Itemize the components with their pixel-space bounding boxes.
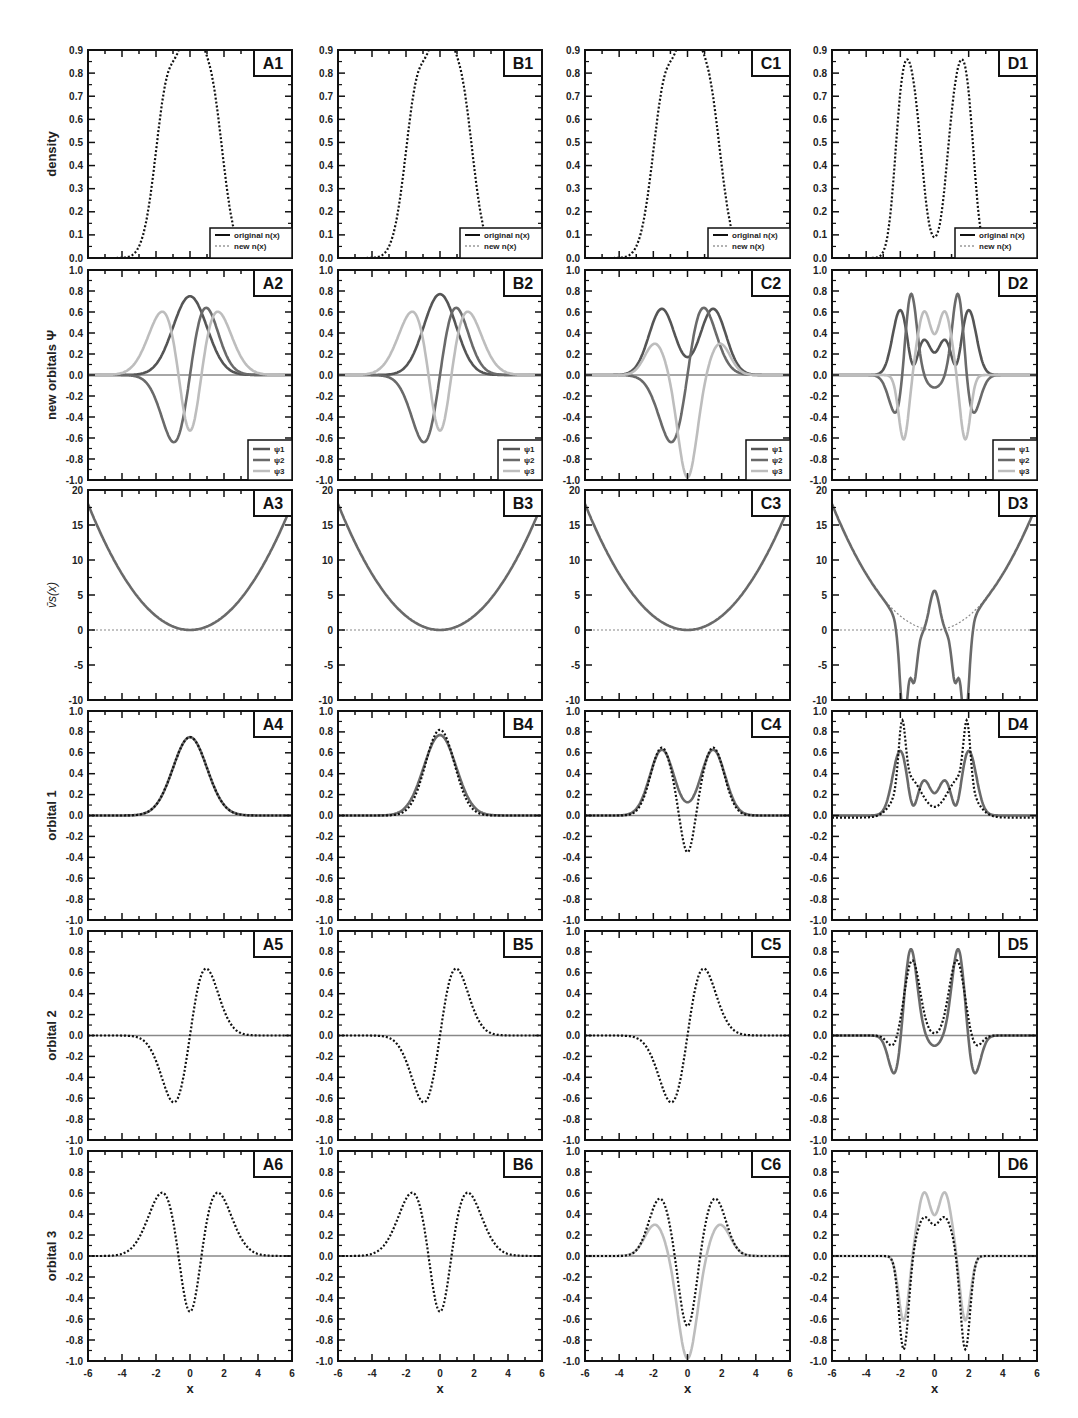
panel-A3: -10-505101520A3v̄s(x) [45, 485, 292, 706]
y-tick-label: 0.3 [566, 183, 580, 194]
y-tick-label: 0.6 [813, 307, 827, 318]
legend-entry: new n(x) [979, 242, 1012, 251]
x-axis-label: x [436, 1381, 444, 1396]
y-tick-label: 0.0 [319, 1251, 333, 1262]
y-tick-label: -0.6 [563, 433, 581, 444]
legend-entry: ψ1 [274, 445, 285, 454]
y-tick-label: 0.7 [813, 91, 827, 102]
y-tick-label: 0.2 [566, 1230, 580, 1241]
y-tick-label: -0.8 [316, 1114, 334, 1125]
curves-A2 [88, 296, 292, 442]
plot-frame [338, 50, 542, 258]
panel-D1: 0.00.10.20.30.40.50.60.70.80.9D1original… [813, 45, 1037, 264]
y-tick-label: -1.0 [563, 915, 581, 926]
y-tick-label: -1.0 [66, 1135, 84, 1146]
y-tick-label: -0.4 [66, 852, 84, 863]
y-tick-label: 0.8 [69, 68, 83, 79]
legend-entry: ψ2 [772, 456, 783, 465]
y-tick-label: 0.0 [813, 810, 827, 821]
x-tick-label: 2 [471, 1368, 477, 1379]
y-tick-label: -0.2 [66, 391, 84, 402]
y-tick-label: -0.6 [66, 433, 84, 444]
y-tick-label: 0.8 [566, 1167, 580, 1178]
y-tick-label: 1.0 [319, 926, 333, 937]
y-tick-label: 0.8 [319, 726, 333, 737]
y-tick-label: 0.5 [69, 137, 83, 148]
y-tick-label: -0.4 [66, 1072, 84, 1083]
y-tick-label: 0.2 [69, 349, 83, 360]
y-tick-label: -0.2 [563, 831, 581, 842]
x-tick-label: 6 [289, 1368, 295, 1379]
y-tick-label: 0.2 [69, 789, 83, 800]
y-tick-label: 0.2 [813, 1009, 827, 1020]
y-tick-label: 0.8 [69, 726, 83, 737]
panel-label: C3 [761, 495, 782, 512]
y-tick-label: 0.2 [566, 1009, 580, 1020]
legend-entry: new n(x) [484, 242, 517, 251]
panel-D6: -1.0-0.8-0.6-0.4-0.20.00.20.40.60.81.0D6… [810, 1146, 1040, 1397]
y-tick-label: -10 [319, 695, 334, 706]
y-tick-label: 1.0 [69, 706, 83, 717]
y-tick-label: 0.6 [566, 307, 580, 318]
y-tick-label: 5 [327, 590, 333, 601]
y-tick-label: 1.0 [319, 265, 333, 276]
x-tick-label: 4 [505, 1368, 511, 1379]
row-y-label: density [44, 130, 59, 176]
y-tick-label: -0.8 [810, 1335, 828, 1346]
y-tick-label: 0.8 [319, 1167, 333, 1178]
curves-B4 [338, 730, 542, 816]
x-tick-label: -4 [118, 1368, 127, 1379]
y-tick-label: 0.0 [566, 370, 580, 381]
y-tick-label: 1.0 [319, 1146, 333, 1157]
y-tick-label: 0.6 [813, 967, 827, 978]
y-tick-label: 0.7 [319, 91, 333, 102]
y-tick-label: 0.2 [319, 349, 333, 360]
y-tick-label: 0.4 [566, 1209, 580, 1220]
y-tick-label: 0 [821, 625, 827, 636]
y-tick-label: 0.0 [813, 1030, 827, 1041]
panel-D4: -1.0-0.8-0.6-0.4-0.20.00.20.40.60.81.0D4 [810, 706, 1037, 926]
panel-label: C6 [761, 1156, 782, 1173]
plot-frame [585, 490, 790, 700]
y-tick-label: 0.6 [69, 1188, 83, 1199]
y-tick-label: 0.8 [319, 68, 333, 79]
y-tick-label: 0.1 [319, 229, 333, 240]
panel-C3: -10-505101520C3 [566, 485, 790, 706]
y-tick-label: 0.4 [566, 768, 580, 779]
y-tick-label: 0.0 [69, 253, 83, 264]
x-axis-label: x [684, 1381, 692, 1396]
panel-D5: -1.0-0.8-0.6-0.4-0.20.00.20.40.60.81.0D5 [810, 926, 1037, 1146]
x-tick-label: 4 [1000, 1368, 1006, 1379]
legend-entry: ψ3 [274, 467, 285, 476]
y-tick-label: -0.4 [66, 1293, 84, 1304]
y-tick-label: -0.4 [810, 1072, 828, 1083]
y-tick-label: -0.2 [810, 391, 828, 402]
y-tick-label: -0.2 [810, 1272, 828, 1283]
y-tick-label: 0.2 [319, 1009, 333, 1020]
panel-label: B2 [513, 275, 534, 292]
legend-entry: ψ3 [772, 467, 783, 476]
y-tick-label: -0.8 [316, 894, 334, 905]
y-tick-label: 0.4 [319, 328, 333, 339]
panel-D2: -1.0-0.8-0.6-0.4-0.20.00.20.40.60.81.0D2… [810, 265, 1037, 486]
panel-label: D2 [1008, 275, 1029, 292]
y-tick-label: -0.8 [316, 454, 334, 465]
panel-B5: -1.0-0.8-0.6-0.4-0.20.00.20.40.60.81.0B5 [316, 926, 542, 1146]
y-tick-label: 0.8 [813, 946, 827, 957]
x-tick-label: 2 [966, 1368, 972, 1379]
x-axis-label: x [186, 1381, 194, 1396]
plot-frame [88, 490, 292, 700]
x-tick-label: -4 [615, 1368, 624, 1379]
legend-entry: original n(x) [979, 231, 1025, 240]
y-tick-label: -0.6 [66, 1314, 84, 1325]
x-tick-label: 0 [685, 1368, 691, 1379]
y-tick-label: 0.0 [319, 370, 333, 381]
panel-label: D5 [1008, 936, 1029, 953]
panel-label: A3 [263, 495, 284, 512]
y-tick-label: 0.1 [69, 229, 83, 240]
legend-entry: original n(x) [234, 231, 280, 240]
row-y-label: v̄s(x) [45, 582, 59, 608]
panel-B2: -1.0-0.8-0.6-0.4-0.20.00.20.40.60.81.0B2… [316, 265, 542, 486]
y-tick-label: 1.0 [566, 706, 580, 717]
panel-C5: -1.0-0.8-0.6-0.4-0.20.00.20.40.60.81.0C5 [563, 926, 790, 1146]
